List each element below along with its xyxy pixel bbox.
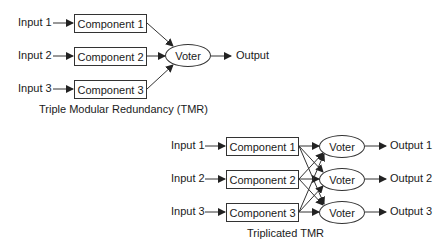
connector-arrows xyxy=(0,0,446,247)
ttmr-output-2-label: Output 2 xyxy=(390,172,432,185)
tmr-caption: Triple Modular Redundancy (TMR) xyxy=(39,103,208,115)
ttmr-component-2-box: Component 2 xyxy=(226,170,299,189)
tmr-component-2-box: Component 2 xyxy=(74,47,147,66)
tmr-output-label: Output xyxy=(236,49,269,62)
tmr-component-1-box: Component 1 xyxy=(74,14,147,33)
tmr-input-2-label: Input 2 xyxy=(18,49,52,62)
tmr-voter-ellipse: Voter xyxy=(165,44,211,67)
ttmr-output-1-label: Output 1 xyxy=(390,139,432,152)
ttmr-voter-2-ellipse: Voter xyxy=(319,168,365,191)
ttmr-input-3-label: Input 3 xyxy=(171,205,205,218)
tmr-component-3-box: Component 3 xyxy=(74,80,147,99)
ttmr-component-3-box: Component 3 xyxy=(226,203,299,222)
ttmr-output-3-label: Output 3 xyxy=(390,205,432,218)
ttmr-input-1-label: Input 1 xyxy=(171,139,205,152)
ttmr-input-2-label: Input 2 xyxy=(171,172,205,185)
ttmr-voter-3-ellipse: Voter xyxy=(319,201,365,224)
ttmr-voter-1-ellipse: Voter xyxy=(319,135,365,158)
ttmr-caption: Triplicated TMR xyxy=(247,227,324,239)
tmr-input-3-label: Input 3 xyxy=(18,82,52,95)
tmr-input-1-label: Input 1 xyxy=(18,16,52,29)
ttmr-component-1-box: Component 1 xyxy=(226,137,299,156)
